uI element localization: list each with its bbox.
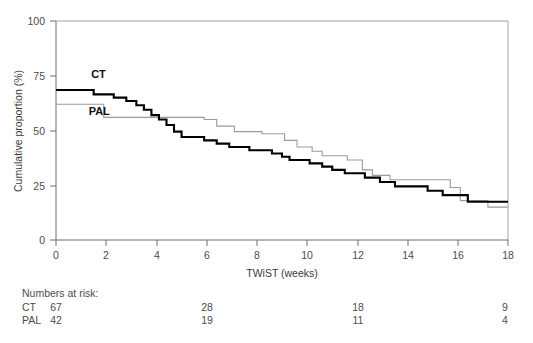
risk-ct-week18: 9 [502, 301, 508, 313]
risk-pal-week12: 11 [353, 314, 364, 326]
y-tick-label-75: 75 [33, 70, 45, 82]
x-tick-label-14: 14 [402, 249, 414, 261]
series-label-ct: CT [91, 68, 106, 80]
risk-ct-week12: 18 [352, 301, 364, 313]
risk-pal-week0: 42 [50, 314, 62, 326]
risk-row-label-ct: CT [22, 301, 37, 313]
figure-container: 100 75 50 25 0 Cumulative proportion (%)… [0, 0, 533, 343]
x-axis: 0 2 4 6 8 10 12 14 16 18 [53, 240, 514, 261]
risk-row-label-pal: PAL [22, 314, 41, 326]
x-tick-label-10: 10 [301, 249, 313, 261]
y-tick-label-100: 100 [27, 15, 45, 27]
y-axis: 100 75 50 25 0 [27, 15, 56, 246]
x-tick-label-12: 12 [352, 249, 364, 261]
x-tick-label-16: 16 [452, 249, 464, 261]
x-tick-label-8: 8 [254, 249, 260, 261]
risk-ct-week6: 28 [201, 301, 213, 313]
series-label-pal: PAL [89, 105, 110, 117]
plot-frame [56, 21, 508, 240]
y-tick-label-50: 50 [33, 125, 45, 137]
x-tick-label-2: 2 [103, 249, 109, 261]
curve-ct [56, 90, 508, 202]
x-axis-title: TWiST (weeks) [246, 267, 318, 279]
x-tick-label-6: 6 [204, 249, 210, 261]
kaplan-meier-chart: 100 75 50 25 0 Cumulative proportion (%)… [0, 0, 533, 343]
x-tick-label-0: 0 [53, 249, 59, 261]
numbers-at-risk-table: Numbers at risk: CT 67 28 18 9 PAL 42 19… [22, 287, 508, 326]
x-tick-label-4: 4 [154, 249, 160, 261]
risk-ct-week0: 67 [50, 301, 62, 313]
numbers-at-risk-heading: Numbers at risk: [22, 287, 98, 299]
y-tick-label-0: 0 [39, 234, 45, 246]
risk-pal-week6: 19 [201, 314, 213, 326]
x-tick-label-18: 18 [502, 249, 514, 261]
risk-pal-week18: 4 [502, 314, 508, 326]
y-tick-label-25: 25 [33, 180, 45, 192]
y-axis-title: Cumulative proportion (%) [12, 70, 24, 192]
